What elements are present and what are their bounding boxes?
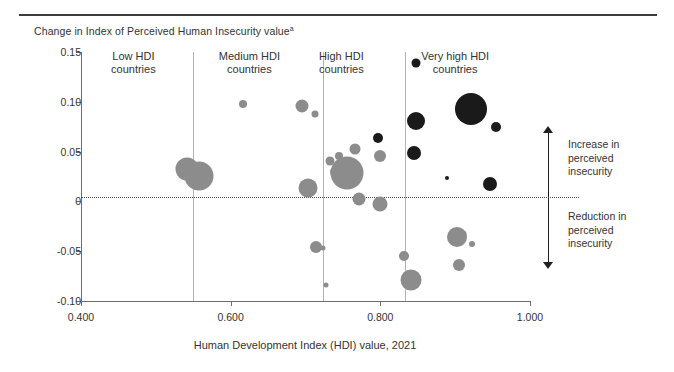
- data-bubble: [373, 133, 383, 143]
- arrow-down-shaft: [548, 198, 549, 264]
- y-axis-line: [81, 52, 82, 301]
- group-divider-line: [323, 52, 324, 301]
- x-tick-label: 0.600: [196, 311, 266, 323]
- data-bubble: [412, 58, 421, 67]
- x-tick-mark: [530, 301, 531, 306]
- data-bubble: [299, 179, 318, 198]
- annotation-increase-line2: perceived: [568, 152, 668, 166]
- chart-figure: Change in Index of Perceived Human Insec…: [0, 0, 674, 372]
- group-label-1: Low HDIcountries: [73, 50, 193, 76]
- data-bubble: [324, 283, 329, 288]
- x-axis-title: Human Development Index (HDI) value, 202…: [0, 339, 610, 351]
- y-tick-label: -0.05: [35, 245, 81, 257]
- data-bubble: [483, 177, 497, 191]
- data-bubble: [399, 251, 409, 261]
- zero-reference-line: [81, 197, 579, 198]
- data-bubble: [373, 197, 388, 212]
- data-bubble: [460, 231, 467, 238]
- x-tick-label: 0.800: [345, 311, 415, 323]
- x-tick-mark: [81, 301, 82, 306]
- data-bubble: [453, 259, 465, 271]
- data-bubble: [455, 93, 487, 125]
- data-bubble: [330, 166, 342, 178]
- data-bubble: [469, 241, 475, 247]
- data-bubble: [352, 193, 365, 206]
- annotation-decrease-line3: insecurity: [568, 237, 668, 251]
- annotation-increase-line1: Increase in: [568, 138, 668, 152]
- y-tick-label: 0.05: [35, 146, 81, 158]
- data-bubble: [239, 100, 247, 108]
- data-bubble: [491, 122, 501, 132]
- data-bubble: [349, 143, 360, 154]
- y-axis-title: Change in Index of Perceived Human Insec…: [34, 25, 294, 37]
- data-bubble: [320, 246, 325, 251]
- group-label-line2: countries: [73, 63, 193, 76]
- x-axis-line: [81, 301, 531, 302]
- data-bubble: [295, 99, 308, 112]
- x-tick-label: 0.400: [46, 311, 116, 323]
- data-bubble: [407, 112, 425, 130]
- annotation-increase: Increase in perceived insecurity: [568, 138, 668, 179]
- annotation-increase-line3: insecurity: [568, 165, 668, 179]
- y-tick-label: 0: [35, 195, 81, 207]
- annotation-decrease: Reduction in perceived insecurity: [568, 210, 668, 251]
- arrow-up-shaft: [548, 131, 549, 197]
- group-label-3: High HDIcountries: [281, 50, 401, 76]
- data-bubble: [312, 110, 319, 117]
- x-tick-label: 1.000: [495, 311, 565, 323]
- x-tick-mark: [231, 301, 232, 306]
- y-tick-label: -0.10: [35, 295, 81, 307]
- annotation-decrease-line1: Reduction in: [568, 210, 668, 224]
- top-divider-rule: [19, 14, 657, 16]
- y-tick-label: 0.10: [35, 96, 81, 108]
- group-label-line1: High HDI: [281, 50, 401, 63]
- annotation-decrease-line2: perceived: [568, 224, 668, 238]
- data-bubble: [445, 176, 449, 180]
- data-bubble: [401, 270, 422, 291]
- group-label-line2: countries: [281, 63, 401, 76]
- footnote-marker: a: [290, 25, 294, 32]
- group-divider-line: [405, 52, 406, 301]
- x-tick-mark: [380, 301, 381, 306]
- group-label-line1: Low HDI: [73, 50, 193, 63]
- y-axis-title-text: Change in Index of Perceived Human Insec…: [34, 25, 290, 37]
- data-bubble: [374, 150, 386, 162]
- data-bubble: [407, 146, 421, 160]
- data-bubble: [185, 161, 214, 190]
- arrow-down-icon: [543, 262, 553, 269]
